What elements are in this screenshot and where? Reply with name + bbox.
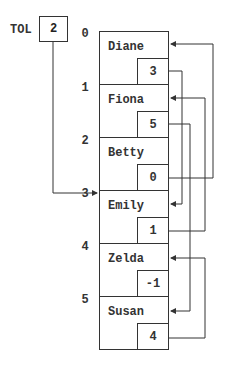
list-node: Fiona 5: [99, 84, 169, 138]
index-label: 4: [78, 240, 92, 254]
node-next-value: 4: [149, 330, 156, 344]
node-name: Fiona: [108, 93, 144, 107]
node-name: Emily: [108, 199, 144, 213]
list-node: Emily 1: [99, 190, 169, 244]
node-name: Zelda: [108, 252, 144, 266]
index-label: 0: [78, 27, 92, 41]
arrow-head-to-betty: [53, 42, 97, 193]
node-name: Betty: [108, 146, 144, 160]
head-pointer-label: TOL: [10, 23, 32, 37]
list-node: Susan 4: [99, 296, 169, 350]
index-label: 5: [78, 293, 92, 307]
node-next-field: 5: [137, 111, 169, 138]
list-node: Betty 0: [99, 137, 169, 191]
index-label: 1: [78, 81, 92, 95]
node-next-value: 1: [149, 224, 156, 238]
node-next-field: -1: [137, 270, 169, 297]
list-node: Zelda -1: [99, 243, 169, 297]
arrow-emily-to-fiona: [169, 98, 205, 231]
node-next-value: 0: [149, 171, 156, 185]
node-next-field: 0: [137, 164, 169, 191]
list-node: Diane 3: [99, 31, 169, 85]
node-next-field: 3: [137, 58, 169, 85]
node-next-value: -1: [146, 277, 160, 291]
index-label: 3: [78, 187, 92, 201]
index-label: 2: [78, 134, 92, 148]
head-pointer-box: 2: [39, 16, 68, 42]
node-next-field: 4: [137, 323, 169, 350]
node-next-field: 1: [137, 217, 169, 244]
node-next-value: 3: [149, 65, 156, 79]
arrow-fiona-to-susan: [169, 124, 190, 311]
node-name: Susan: [108, 305, 144, 319]
node-name: Diane: [108, 40, 144, 54]
head-pointer-value: 2: [50, 22, 57, 36]
arrow-betty-to-diane: [169, 44, 213, 178]
arrow-diane-to-emily: [169, 71, 182, 204]
arrow-susan-to-zelda: [169, 258, 205, 338]
node-next-value: 5: [149, 118, 156, 132]
